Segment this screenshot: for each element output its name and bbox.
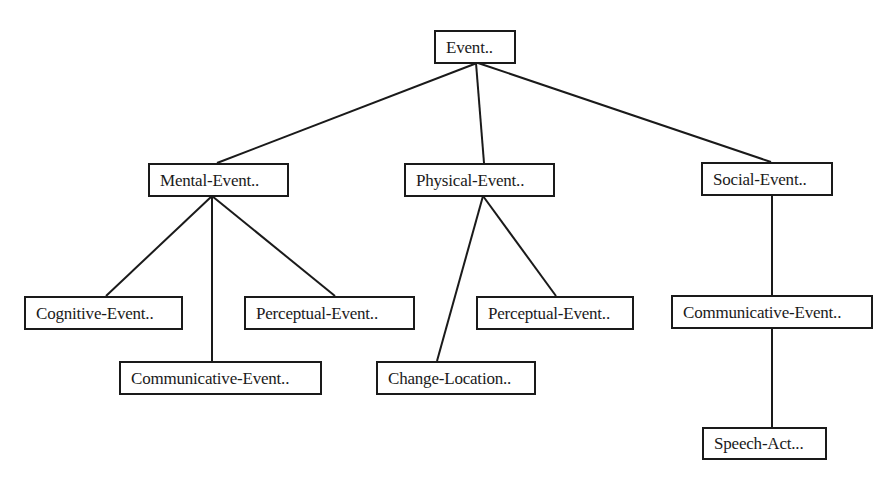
node-perceptual-event-mental[interactable]: Perceptual-Event.. [244, 296, 415, 330]
node-perceptual-event-physical[interactable]: Perceptual-Event.. [476, 296, 634, 330]
edge-event-to-mental [217, 63, 477, 163]
edge-physical-to-change_location [437, 196, 483, 361]
node-label: Perceptual-Event.. [256, 305, 378, 322]
node-label: Change-Location.. [388, 370, 511, 387]
node-communicative-event-social[interactable]: Communicative-Event.. [671, 295, 873, 329]
edge-mental-to-perceptual_mental [212, 196, 335, 296]
node-label: Communicative-Event.. [683, 304, 841, 321]
node-cognitive-event[interactable]: Cognitive-Event.. [24, 296, 183, 330]
edge-layer [0, 0, 896, 485]
node-social-event[interactable]: Social-Event.. [701, 162, 833, 196]
edge-event-to-social [478, 63, 771, 162]
edge-event-to-physical [476, 63, 484, 163]
node-label: Communicative-Event.. [131, 370, 289, 387]
node-communicative-event-mental[interactable]: Communicative-Event.. [119, 361, 322, 395]
node-mental-event[interactable]: Mental-Event.. [148, 163, 289, 197]
node-event[interactable]: Event.. [434, 30, 516, 64]
node-label: Event.. [446, 39, 493, 56]
node-label: Physical-Event.. [416, 172, 524, 189]
node-speech-act[interactable]: Speech-Act... [702, 427, 827, 460]
node-label: Perceptual-Event.. [488, 305, 610, 322]
node-label: Speech-Act... [714, 435, 803, 452]
node-physical-event[interactable]: Physical-Event.. [404, 163, 555, 197]
edge-physical-to-perceptual_physical [483, 196, 556, 296]
node-label: Cognitive-Event.. [36, 305, 153, 322]
node-label: Mental-Event.. [160, 172, 259, 189]
event-hierarchy-diagram: Event.. Mental-Event.. Physical-Event.. … [0, 0, 896, 485]
edge-mental-to-cognitive [106, 196, 212, 296]
node-label: Social-Event.. [713, 171, 807, 188]
node-change-location[interactable]: Change-Location.. [376, 361, 536, 395]
